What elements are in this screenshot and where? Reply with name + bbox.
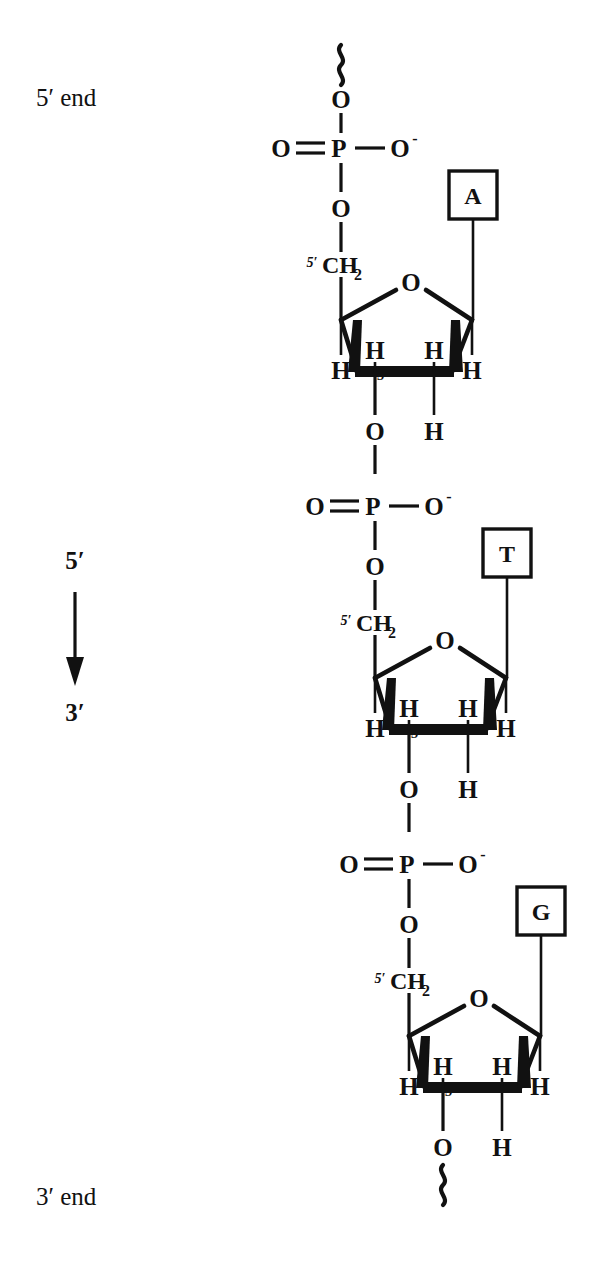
c5-methylene-group-3: 5′ CH 2 [375,968,430,1036]
hydrogen-c2-up-1: H [424,337,444,364]
hydrogen-c3-1: H [365,337,385,364]
ring-front-edge-3 [423,1082,522,1093]
base-letter-3: G [532,899,551,925]
hydrogen-c4-2: H [365,715,385,742]
hydrogen-c1-1: H [462,357,482,384]
c5-prime-label-1: 5′ [307,255,318,270]
nucleotide-unit-2: O P O - O 5′ CH 2 O [305,445,531,803]
ring-oxygen-2: O [435,627,454,654]
base-letter-1: A [464,183,482,209]
c5-prime-label-3: 5′ [375,971,386,986]
hydrogen-c3-3: H [433,1053,453,1080]
ch2-subscript-1: 2 [354,266,362,283]
base-letter-2: T [499,541,515,567]
ch2-subscript-3: 2 [422,982,430,999]
top-chain-squiggle [339,45,343,85]
direction-label-bottom: 3′ [65,699,85,726]
phosphate-group-2: O P O - O [305,445,451,610]
base-box-guanine: G [517,887,565,1036]
ring-wedge-right-2 [483,678,497,730]
double-bond-oxygen-1: O [271,135,290,162]
c5-methylene-group-1: 5′ CH 2 [307,252,362,320]
ch2-label-1: CH [322,252,358,278]
nucleotide-unit-1: O O P O - O 5′ CH 2 [271,86,497,445]
bottom-chain-squiggle [441,1165,445,1205]
ring-edge-c4-o-1 [341,290,396,320]
ring-oxygen-1: O [401,269,420,296]
dna-backbone-figure: O O P O - O 5′ CH 2 [0,0,592,1265]
c3-prime-label-3: 3′ [445,1084,457,1099]
base-box-adenine: A [449,171,497,320]
ring-front-edge-2 [389,724,488,735]
ring-wedge-right-1 [449,320,463,372]
c5-methylene-group-2: 5′ CH 2 [341,610,396,678]
strand-direction-indicator: 5′ 3′ [65,547,85,726]
hydrogen-c2-up-3: H [492,1053,512,1080]
deoxyribose-ring-2: O H H H H 3′ H O [365,627,516,803]
phosphorus-atom-1: P [331,135,346,162]
bridging-oxygen-bottom-2: O [365,553,384,580]
double-bond-oxygen-2: O [305,493,324,520]
ring-edge-c4-o-3 [409,1006,464,1036]
bridging-oxygen-top-1: O [331,86,350,113]
three-prime-oxygen-3: O [433,1134,452,1161]
hydrogen-c2-down-2: H [458,776,478,803]
ring-wedge-right-3 [517,1036,531,1088]
c3-prime-label-1: 3′ [377,368,389,383]
hydrogen-c2-down-1: H [424,418,444,445]
phosphate-group-3: O P O - O [339,803,485,968]
hydrogen-c1-3: H [530,1073,550,1100]
dna-structure-svg: O O P O - O 5′ CH 2 [0,0,592,1265]
direction-arrow-head [66,657,84,686]
hydrogen-c3-2: H [399,695,419,722]
anion-charge-2: - [446,488,451,505]
ring-oxygen-3: O [469,985,488,1012]
three-prime-oxygen-1: O [365,418,384,445]
hydrogen-c2-down-3: H [492,1134,512,1161]
bridging-oxygen-bottom-3: O [399,911,418,938]
deoxyribose-ring-1: O H H H H 3 [331,269,482,445]
hydrogen-c4-1: H [331,357,351,384]
ch2-label-2: CH [356,610,392,636]
c5-prime-label-2: 5′ [341,613,352,628]
phosphate-group-1: O O P O - O [271,86,417,253]
three-prime-oxygen-2: O [399,776,418,803]
five-prime-end-label: 5′ end [36,84,97,111]
anionic-oxygen-3: O [458,851,477,878]
hydrogen-c1-2: H [496,715,516,742]
phosphorus-atom-2: P [365,493,380,520]
anionic-oxygen-1: O [390,135,409,162]
ch2-label-3: CH [390,968,426,994]
hydrogen-c4-3: H [399,1073,419,1100]
anion-charge-3: - [480,846,485,863]
anionic-oxygen-2: O [424,493,443,520]
ring-edge-o-c1-3 [494,1006,540,1036]
deoxyribose-ring-3: O H H H H 3′ H O [399,985,550,1161]
ch2-subscript-2: 2 [388,624,396,641]
bridging-oxygen-bottom-1: O [331,195,350,222]
three-prime-end-label: 3′ end [36,1183,97,1210]
ring-edge-o-c1-1 [426,290,472,320]
ring-front-edge-1 [355,366,454,377]
ring-edge-c4-o-2 [375,648,430,678]
phosphorus-atom-3: P [399,851,414,878]
c3-prime-label-2: 3′ [411,726,423,741]
direction-label-top: 5′ [65,547,85,574]
nucleotide-unit-3: O P O - O 5′ CH 2 O [339,803,565,1161]
double-bond-oxygen-3: O [339,851,358,878]
hydrogen-c2-up-2: H [458,695,478,722]
anion-charge-1: - [412,130,417,147]
base-box-thymine: T [483,529,531,678]
ring-edge-o-c1-2 [460,648,506,678]
